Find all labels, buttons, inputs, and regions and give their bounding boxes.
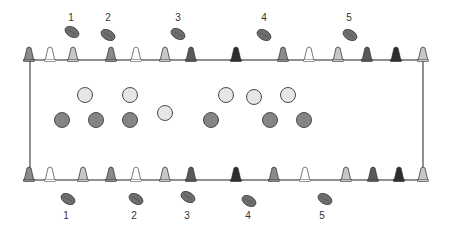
football-icon — [240, 193, 258, 209]
top-ball-stations: 12345 — [63, 12, 359, 43]
football-station: 5 — [316, 191, 334, 221]
station-number-label: 2 — [105, 12, 111, 23]
cone-icon — [333, 47, 344, 62]
light-player-icon — [78, 88, 93, 103]
station-number-label: 5 — [319, 210, 325, 221]
cone-icon — [368, 167, 379, 182]
dark-player-icon — [297, 113, 312, 128]
station-number-label: 2 — [131, 210, 137, 221]
dark-player-icon — [55, 113, 70, 128]
cone-icon — [418, 167, 429, 182]
cone-icon — [24, 47, 35, 62]
cone-icon — [24, 167, 35, 182]
football-station: 1 — [59, 191, 77, 221]
cone-icon — [78, 167, 89, 182]
cone-icon — [362, 47, 373, 62]
players — [55, 88, 312, 128]
dark-player-icon — [263, 113, 278, 128]
cone-icon — [160, 167, 171, 182]
cone-icon — [278, 47, 289, 62]
cone-icon — [418, 47, 429, 62]
cone-icon — [131, 47, 142, 62]
cone-icon — [45, 47, 56, 62]
light-player-icon — [219, 88, 234, 103]
cone-icon — [231, 47, 242, 62]
football-icon — [59, 191, 77, 207]
football-icon — [63, 24, 81, 40]
football-station: 4 — [240, 193, 258, 221]
cone-icon — [341, 167, 352, 182]
station-number-label: 5 — [346, 12, 352, 23]
cone-icon — [300, 167, 311, 182]
cone-icon — [231, 167, 242, 182]
cone-icon — [269, 167, 280, 182]
dark-player-icon — [89, 113, 104, 128]
drill-diagram: 12345 12345 — [0, 0, 449, 236]
cone-icon — [186, 47, 197, 62]
cone-icon — [394, 167, 405, 182]
light-player-icon — [158, 106, 173, 121]
station-number-label: 4 — [245, 210, 251, 221]
football-icon — [316, 191, 334, 207]
football-station: 4 — [255, 12, 273, 43]
station-number-label: 3 — [175, 12, 181, 23]
cone-icon — [186, 167, 197, 182]
football-icon — [341, 27, 359, 43]
top-cone-line — [24, 47, 429, 62]
cone-icon — [160, 47, 171, 62]
bottom-cone-line — [24, 167, 429, 182]
football-station: 3 — [179, 189, 197, 221]
football-icon — [255, 27, 273, 43]
football-icon — [179, 189, 197, 205]
football-icon — [169, 26, 187, 42]
football-station: 5 — [341, 12, 359, 43]
station-number-label: 4 — [261, 12, 267, 23]
dark-player-icon — [123, 113, 138, 128]
light-player-icon — [281, 88, 296, 103]
cone-icon — [131, 167, 142, 182]
football-icon — [99, 27, 117, 43]
light-player-icon — [247, 90, 262, 105]
football-station: 1 — [63, 12, 81, 40]
cone-icon — [106, 167, 117, 182]
light-player-icon — [123, 88, 138, 103]
station-number-label: 1 — [63, 210, 69, 221]
football-station: 3 — [169, 12, 187, 42]
cone-icon — [304, 47, 315, 62]
bottom-ball-stations: 12345 — [59, 189, 334, 221]
football-icon — [127, 191, 145, 207]
station-number-label: 1 — [68, 12, 74, 23]
cone-icon — [45, 167, 56, 182]
cone-icon — [106, 47, 117, 62]
cone-icon — [391, 47, 402, 62]
football-station: 2 — [99, 12, 117, 43]
cone-icon — [68, 47, 79, 62]
football-station: 2 — [127, 191, 145, 221]
dark-player-icon — [204, 113, 219, 128]
station-number-label: 3 — [184, 210, 190, 221]
